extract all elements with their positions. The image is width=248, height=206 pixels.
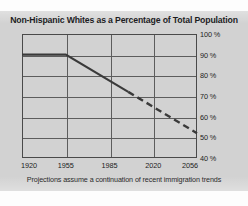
y-axis-tick-label: 90 % (200, 50, 216, 59)
chart-caption: Projections assume a continuation of rec… (0, 175, 248, 184)
x-axis-labels: 19201955198520202056 (0, 161, 248, 173)
gridline-horizontal (23, 76, 196, 77)
gridline-horizontal (23, 118, 196, 119)
page-bottom-margin (0, 191, 248, 206)
page-top-margin (0, 0, 248, 11)
plot-area (22, 34, 197, 158)
x-axis-tick-label: 1985 (102, 161, 118, 170)
x-axis-tick-label: 1920 (21, 161, 37, 170)
y-axis-tick-label: 100 % (200, 30, 220, 39)
y-axis-tick-label: 70 % (200, 92, 216, 101)
x-axis-tick-label: 2020 (145, 161, 161, 170)
gridline-vertical (154, 35, 155, 157)
gridline-vertical (67, 35, 68, 157)
x-axis-tick-label: 2056 (182, 161, 198, 170)
chart-title: Non-Hispanic Whites as a Percentage of T… (0, 15, 248, 25)
y-axis-tick-label: 50 % (200, 133, 216, 142)
x-axis-tick-label: 1955 (58, 161, 74, 170)
gridline-vertical (111, 35, 112, 157)
y-axis-tick-label: 60 % (200, 112, 216, 121)
y-axis-tick-label: 80 % (200, 71, 216, 80)
chart-page: Non-Hispanic Whites as a Percentage of T… (0, 0, 248, 206)
gridline-horizontal (23, 138, 196, 139)
gridline-horizontal (23, 56, 196, 57)
y-axis-labels: 100 %90 %80 %70 %60 %50 %40 % (200, 34, 246, 158)
gridline-horizontal (23, 97, 196, 98)
